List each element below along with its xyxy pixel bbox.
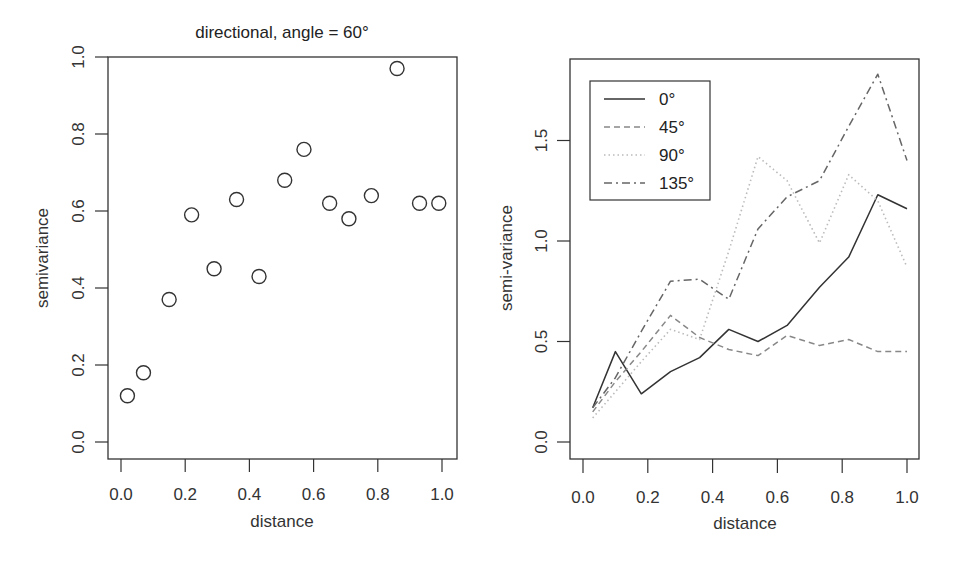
x-tick-label: 0.4 xyxy=(701,488,725,507)
data-point xyxy=(297,142,311,156)
left-scatter-panel: directional, angle = 60° 0.00.20.40.60.8… xyxy=(33,23,457,531)
left-scatter-points xyxy=(120,62,445,403)
right-x-axis: 0.00.20.40.60.81.0 xyxy=(571,459,919,507)
y-tick-label: 0.0 xyxy=(532,430,551,454)
x-tick-label: 0.6 xyxy=(302,485,326,504)
legend-label: 45° xyxy=(659,118,685,137)
data-point xyxy=(136,366,150,380)
x-tick-label: 0.0 xyxy=(571,488,595,507)
series-line xyxy=(593,315,907,412)
x-tick-label: 0.4 xyxy=(238,485,262,504)
x-tick-label: 0.2 xyxy=(173,485,197,504)
y-tick-label: 0.0 xyxy=(69,430,88,454)
y-tick-label: 0.6 xyxy=(69,199,88,223)
data-point xyxy=(413,196,427,210)
data-point xyxy=(120,389,134,403)
data-point xyxy=(230,192,244,206)
data-point xyxy=(364,189,378,203)
legend-label: 135° xyxy=(659,174,694,193)
left-x-axis: 0.00.20.40.60.81.0 xyxy=(109,459,454,504)
data-point xyxy=(185,208,199,222)
x-tick-label: 0.8 xyxy=(830,488,854,507)
series-line xyxy=(593,195,907,408)
chart-canvas: directional, angle = 60° 0.00.20.40.60.8… xyxy=(0,0,957,563)
left-y-axis-title: semivariance xyxy=(33,208,52,308)
x-tick-label: 1.0 xyxy=(895,488,919,507)
y-tick-label: 0.2 xyxy=(69,353,88,377)
data-point xyxy=(342,212,356,226)
x-tick-label: 0.0 xyxy=(109,485,133,504)
x-tick-label: 0.2 xyxy=(636,488,660,507)
x-tick-label: 1.0 xyxy=(430,485,454,504)
data-point xyxy=(432,196,446,210)
right-y-axis: 0.00.51.01.5 xyxy=(532,129,570,454)
left-y-axis: 0.00.20.40.60.81.0 xyxy=(69,45,108,454)
y-tick-label: 1.5 xyxy=(532,129,551,153)
left-x-axis-title: distance xyxy=(250,512,313,531)
x-tick-label: 0.8 xyxy=(366,485,390,504)
x-tick-label: 0.6 xyxy=(766,488,790,507)
data-point xyxy=(278,173,292,187)
legend-label: 90° xyxy=(659,146,685,165)
legend-label: 0° xyxy=(659,90,675,109)
y-tick-label: 0.8 xyxy=(69,122,88,146)
data-point xyxy=(390,62,404,76)
y-tick-label: 1.0 xyxy=(69,45,88,69)
right-y-axis-title: semi-variance xyxy=(497,205,516,311)
data-point xyxy=(323,196,337,210)
data-point xyxy=(207,262,221,276)
left-plot-frame xyxy=(108,57,457,459)
data-point xyxy=(252,269,266,283)
y-tick-label: 1.0 xyxy=(532,229,551,253)
legend: 0°45°90°135° xyxy=(590,81,710,200)
right-line-panel: 0.00.51.01.5 0.00.20.40.60.81.0 0°45°90°… xyxy=(497,59,919,533)
data-point xyxy=(162,293,176,307)
left-plot-title: directional, angle = 60° xyxy=(195,23,369,42)
y-tick-label: 0.4 xyxy=(69,276,88,300)
right-x-axis-title: distance xyxy=(713,514,776,533)
y-tick-label: 0.5 xyxy=(532,330,551,354)
